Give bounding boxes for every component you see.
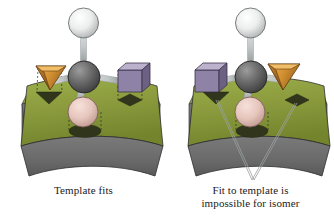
caption-left-line-1: Template fits [0,184,167,197]
template-slab-right [188,77,330,180]
caption-right-line-1: Fit to template is [167,184,334,197]
caption-left: Template fits [0,184,167,197]
cube-front-left [118,70,142,92]
white-atom-right [236,8,266,38]
purple-cube-right [195,63,227,92]
caption-right-line-2: impossible for isomer [167,197,334,210]
caption-right: Fit to template is impossible for isomer [167,184,334,209]
purple-cube-left [118,63,150,92]
cube-front-right [195,70,219,92]
central-atom-left [68,61,100,93]
white-atom-left [69,8,99,38]
pink-atom-left [68,97,98,127]
pink-atom-right [235,97,265,127]
central-atom-right [235,61,267,93]
